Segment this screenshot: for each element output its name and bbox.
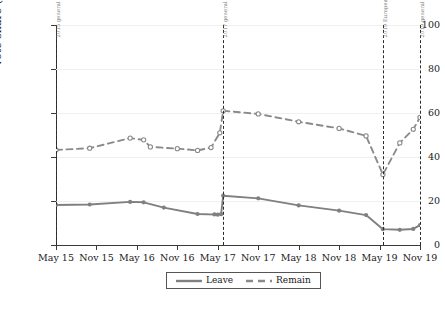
event-line [56,25,57,245]
series-line-leave [56,196,420,230]
legend-label-remain: Remain [276,276,311,285]
data-point-remain [364,134,368,138]
data-point-remain [256,112,260,116]
data-point-remain [142,138,146,142]
series-svg [56,25,420,245]
data-point-leave [398,228,402,232]
data-point-remain [148,145,152,149]
legend-line-solid [176,277,202,285]
event-line-label: 2017 general election [223,0,228,37]
data-point-leave [195,212,199,216]
x-tick-mark [380,245,381,250]
x-tick-mark [258,245,259,250]
data-point-remain [88,146,92,150]
data-point-leave [88,202,92,206]
data-point-remain [128,136,132,140]
plot-area [56,25,420,245]
data-point-remain [175,147,179,151]
data-point-remain [398,141,402,145]
data-point-leave [337,209,341,213]
chart-legend: Leave Remain [166,272,321,289]
y-axis-title: Vote share (%) [0,0,3,96]
legend-line-dashed [246,277,272,285]
data-point-remain [209,145,213,149]
data-point-remain [297,120,301,124]
data-point-leave [411,227,415,231]
x-axis-line [56,245,420,246]
data-point-leave [297,203,301,207]
event-line-label: 2015 general election [56,0,61,37]
data-point-remain [337,126,341,130]
event-line-label: 2019 general election [420,0,425,37]
event-line [223,25,224,245]
data-point-leave [364,213,368,217]
x-tick-mark [96,245,97,250]
figure-caption [0,301,440,310]
legend-item-leave: Leave [176,276,233,285]
x-tick-mark [137,245,138,250]
data-point-remain [411,127,415,131]
event-line [420,25,421,245]
data-point-leave [212,212,216,216]
series-line-remain [56,111,420,175]
data-point-leave [256,196,260,200]
x-tick-label: Nov 19 [390,253,445,263]
legend-label-leave: Leave [206,276,233,285]
legend-item-remain: Remain [246,276,311,285]
data-point-leave [128,200,132,204]
x-tick-mark [177,245,178,250]
data-point-remain [195,148,199,152]
x-tick-mark [218,245,219,250]
data-point-leave [142,200,146,204]
event-line [383,25,384,245]
event-line-label: 2019 European Parliament election [383,0,388,37]
x-tick-mark [56,245,57,250]
data-point-remain [218,131,222,135]
x-tick-mark [299,245,300,250]
x-tick-mark [420,245,421,250]
data-point-leave [162,206,166,210]
x-tick-mark [339,245,340,250]
